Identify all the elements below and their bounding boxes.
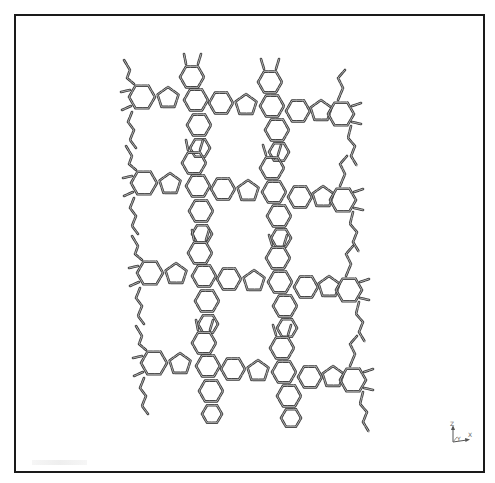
molecule-viewport[interactable] [0, 0, 495, 483]
axis-triad-icon: Z X Y [443, 420, 473, 450]
lattice-row [133, 320, 373, 432]
watermark [32, 460, 87, 465]
axis-x-label: X [468, 431, 472, 438]
lattice-row [121, 54, 361, 166]
carbon-network [121, 54, 373, 432]
lattice-row [129, 230, 369, 342]
lattice-row [123, 140, 363, 252]
axis-z-label: Z [450, 420, 454, 427]
axis-y-label: Y [456, 435, 461, 442]
